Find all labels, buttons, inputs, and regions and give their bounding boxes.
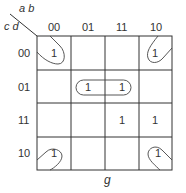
row-header: 10: [18, 147, 30, 159]
cell: 1: [152, 47, 158, 59]
col-header: 00: [48, 21, 60, 33]
row-header: 00: [18, 47, 30, 59]
row-header: 01: [18, 81, 30, 93]
cell: 1: [119, 114, 125, 126]
col-header: 01: [82, 21, 94, 33]
col-header: 11: [116, 21, 127, 33]
col-header: 10: [150, 21, 162, 33]
row-vars-label: c d: [4, 20, 19, 32]
cell: 1: [51, 147, 57, 159]
cell: 1: [85, 81, 91, 93]
cell: 1: [152, 114, 158, 126]
function-label: g: [104, 173, 111, 187]
cell: 1: [155, 147, 161, 159]
loop-corner-bl: [37, 149, 62, 170]
cell: 1: [119, 81, 125, 93]
cell: 1: [51, 47, 57, 59]
col-vars-label: a b: [19, 2, 34, 14]
row-header: 11: [18, 114, 29, 126]
